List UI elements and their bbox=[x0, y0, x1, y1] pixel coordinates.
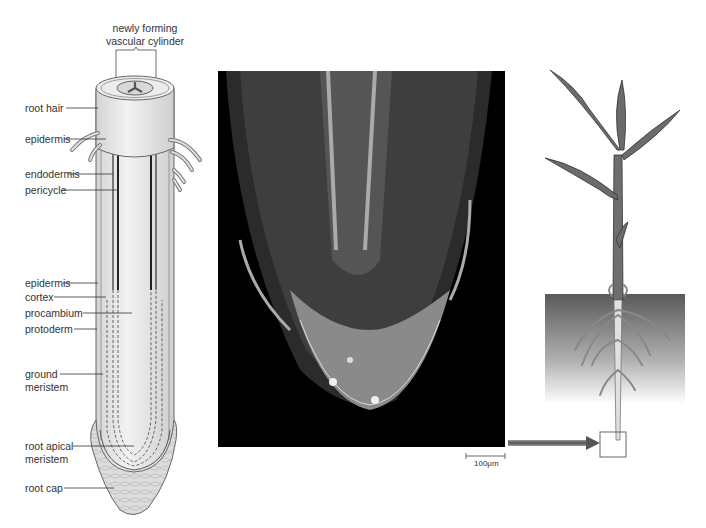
root-top-cylinder bbox=[96, 76, 174, 157]
label-endodermis: endodermis bbox=[25, 168, 80, 180]
label-line: root apical bbox=[25, 440, 73, 453]
root-diagram bbox=[0, 0, 706, 528]
label-root-apical-meristem: root apical meristem bbox=[25, 440, 73, 466]
label-line: meristem bbox=[25, 453, 73, 466]
label-epidermis: epidermis bbox=[25, 277, 71, 289]
label-vascular-cylinder: newly forming vascular cylinder bbox=[100, 22, 190, 48]
label-ground-meristem: ground meristem bbox=[25, 368, 68, 394]
micrograph bbox=[218, 71, 505, 447]
vascular-bracket bbox=[116, 47, 156, 80]
label-procambium: procambium bbox=[25, 307, 83, 319]
label-line: newly forming bbox=[100, 22, 190, 35]
label-pericycle: pericycle bbox=[25, 184, 66, 196]
label-root-hair: root hair bbox=[25, 102, 64, 114]
scale-bar-label: 100μm bbox=[474, 459, 499, 468]
root-tip-box bbox=[600, 432, 626, 457]
label-cortex: cortex bbox=[25, 291, 54, 303]
label-root-cap: root cap bbox=[25, 482, 63, 494]
label-line: vascular cylinder bbox=[100, 35, 190, 48]
label-line: meristem bbox=[25, 381, 68, 394]
label-protoderm: protoderm bbox=[25, 323, 73, 335]
label-line: ground bbox=[25, 368, 68, 381]
pointer-arrow bbox=[508, 436, 600, 450]
label-epidermis-top: epidermis bbox=[25, 133, 71, 145]
